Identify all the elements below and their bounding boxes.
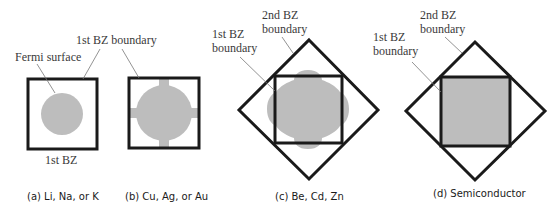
second-bz-label-line1: 2nd BZ [420, 8, 456, 22]
caption-c: (c) Be, Cd, Zn [275, 191, 344, 202]
first-bz-boundary-leader-a [83, 49, 100, 79]
caption-d: (d) Semiconductor [433, 188, 527, 199]
second-bz-leader-c [282, 37, 293, 53]
first-bz-label-line1: 1st BZ [212, 27, 244, 41]
panel-d: 2nd BZ boundary 1st BZ boundary (d) Semi… [373, 8, 545, 199]
first-bz-label-line1: 1st BZ [373, 30, 405, 44]
first-bz-boundary-label: 1st BZ boundary [76, 33, 157, 47]
first-bz-label: 1st BZ [45, 153, 77, 167]
fermi-surface-label: Fermi surface [15, 50, 81, 64]
second-bz-label-line2: boundary [262, 22, 307, 36]
fermi-surface-diagram: Fermi surface 1st BZ boundary 1st BZ (a)… [0, 0, 560, 213]
first-bz-boundary-leader-b [122, 49, 139, 78]
second-bz-label-line2: boundary [420, 22, 465, 36]
caption-b: (b) Cu, Ag, or Au [125, 191, 208, 202]
first-bz-leader-d [412, 62, 441, 92]
fermi-surface-blob [267, 70, 349, 149]
caption-a: (a) Li, Na, or K [27, 191, 99, 202]
second-bz-label-line1: 2nd BZ [262, 8, 298, 22]
fermi-filled-zone [441, 77, 510, 146]
fermi-surface-sphere [41, 93, 83, 135]
first-bz-label-line2: boundary [373, 44, 418, 58]
panel-b: (b) Cu, Ag, or Au [122, 49, 208, 202]
first-bz-label-line2: boundary [212, 41, 257, 55]
panel-c: 2nd BZ boundary 1st BZ boundary (c) Be, … [212, 8, 378, 202]
first-bz-leader-c [240, 57, 275, 91]
second-bz-leader-d [445, 37, 462, 53]
fermi-surface-necked [130, 79, 199, 148]
